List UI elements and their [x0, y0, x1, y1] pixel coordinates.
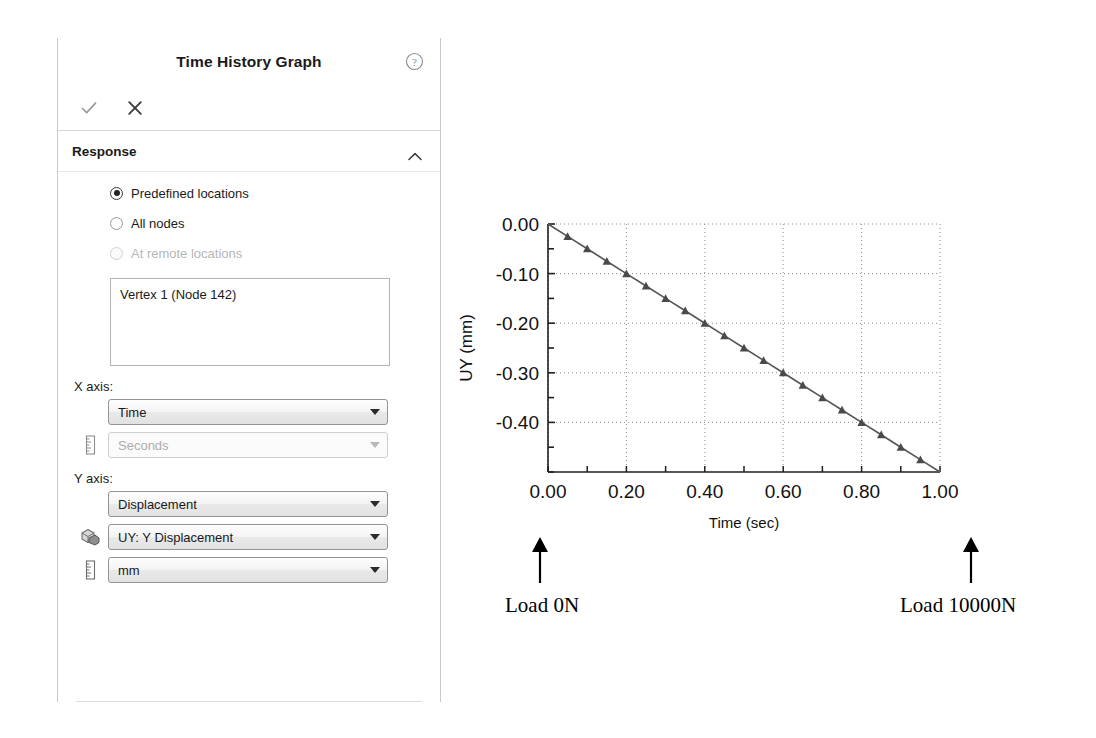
svg-text:0.00: 0.00	[502, 214, 539, 235]
svg-text:Time (sec): Time (sec)	[709, 514, 779, 531]
radio-predefined-locations[interactable]	[110, 187, 123, 200]
chevron-down-icon[interactable]	[370, 534, 380, 540]
panel-header: Time History Graph ?	[58, 38, 440, 86]
svg-text:0.00: 0.00	[530, 481, 567, 502]
section-title: Response	[72, 144, 137, 159]
chart-series-uy	[548, 224, 940, 472]
x-axis-quantity-value: Time	[118, 405, 370, 420]
svg-text:-0.40: -0.40	[496, 412, 539, 433]
svg-text:0.40: 0.40	[686, 481, 723, 502]
svg-text:-0.10: -0.10	[496, 264, 539, 285]
radio-at-remote-locations	[110, 247, 123, 260]
svg-text:0.60: 0.60	[765, 481, 802, 502]
accept-button[interactable]	[76, 95, 102, 121]
panel-bottom-divider	[76, 701, 422, 702]
svg-text:?: ?	[412, 56, 417, 68]
y-axis-component-row: UY: Y Displacement	[58, 524, 440, 550]
ruler-icon	[78, 559, 102, 581]
list-item[interactable]: Vertex 1 (Node 142)	[120, 286, 389, 304]
svg-text:-0.20: -0.20	[496, 313, 539, 334]
y-axis-unit-select[interactable]: mm	[108, 557, 388, 583]
radio-row-at-remote-locations: At remote locations	[58, 238, 440, 268]
y-axis-quantity-row: Displacement	[58, 491, 440, 517]
y-axis-quantity-value: Displacement	[118, 497, 370, 512]
chart-tick-labels: 0.000.200.400.600.801.000.00-0.10-0.20-0…	[496, 214, 959, 502]
radio-all-nodes[interactable]	[110, 217, 123, 230]
x-axis-quantity-select[interactable]: Time	[108, 399, 388, 425]
time-history-graph-panel: Time History Graph ? Response	[57, 38, 441, 702]
x-axis-unit-select: Seconds	[108, 432, 388, 458]
svg-text:0.80: 0.80	[843, 481, 880, 502]
radio-row-predefined-locations[interactable]: Predefined locations	[58, 178, 440, 208]
radio-label-all-nodes: All nodes	[131, 216, 184, 231]
component-cube-icon	[78, 526, 102, 548]
x-axis-label: X axis:	[74, 379, 440, 394]
chevron-down-icon[interactable]	[370, 501, 380, 507]
svg-text:1.00: 1.00	[922, 481, 959, 502]
y-axis-label: Y axis:	[74, 471, 440, 486]
up-arrow-icon	[960, 535, 982, 589]
up-arrow-icon	[529, 535, 551, 589]
radio-label-predefined-locations: Predefined locations	[131, 186, 249, 201]
chevron-down-icon[interactable]	[370, 409, 380, 415]
radio-row-all-nodes[interactable]: All nodes	[58, 208, 440, 238]
x-axis-quantity-row: Time	[58, 399, 440, 425]
radio-label-at-remote-locations: At remote locations	[131, 246, 242, 261]
chevron-down-icon	[370, 442, 380, 448]
help-circle-icon[interactable]: ?	[405, 52, 424, 71]
response-section-body: Predefined locations All nodes At remote…	[58, 172, 440, 583]
cancel-button[interactable]	[122, 95, 148, 121]
y-axis-unit-row: mm	[58, 557, 440, 583]
page-title: Time History Graph	[176, 53, 321, 71]
panel-toolbar	[58, 86, 440, 131]
y-axis-component-value: UY: Y Displacement	[118, 530, 370, 545]
svg-text:0.20: 0.20	[608, 481, 645, 502]
y-axis-component-select[interactable]: UY: Y Displacement	[108, 524, 388, 550]
svg-text:UY (mm): UY (mm)	[457, 314, 476, 382]
y-axis-quantity-select[interactable]: Displacement	[108, 491, 388, 517]
x-axis-unit-row: Seconds	[58, 432, 440, 458]
chevron-down-icon[interactable]	[370, 567, 380, 573]
ruler-icon	[78, 434, 102, 456]
chevron-up-icon[interactable]	[408, 147, 422, 156]
section-header-response[interactable]: Response	[58, 131, 440, 172]
selected-locations-listbox[interactable]: Vertex 1 (Node 142)	[110, 278, 390, 366]
y-axis-unit-value: mm	[118, 563, 370, 578]
x-axis-unit-value: Seconds	[118, 438, 370, 453]
svg-text:-0.30: -0.30	[496, 363, 539, 384]
annotation-load-end: Load 10000N	[900, 593, 1016, 618]
annotation-load-start: Load 0N	[505, 593, 579, 618]
